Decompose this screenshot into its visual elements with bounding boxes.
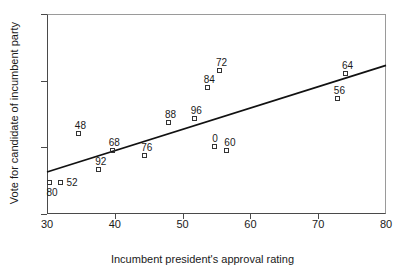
data-point-marker	[110, 148, 115, 153]
data-point-marker	[343, 71, 348, 76]
x-tick-label: 30	[32, 219, 62, 230]
scatter-chart: 40506070 304050607080 805292486876889684…	[0, 0, 405, 276]
data-point-marker	[96, 167, 101, 172]
x-tick-mark	[183, 214, 184, 219]
data-point-label: 64	[342, 61, 353, 71]
data-point-marker	[192, 116, 197, 121]
x-tick-mark	[318, 214, 319, 219]
data-point-label: 88	[165, 110, 176, 120]
data-point-marker	[166, 120, 171, 125]
data-point-label: 72	[216, 58, 227, 68]
y-axis-title: Vote for candidate of incumbent party	[8, 3, 20, 223]
y-tick-mark	[41, 147, 47, 148]
x-tick-label: 80	[371, 219, 401, 230]
data-point-marker	[217, 68, 222, 73]
data-point-marker	[76, 131, 81, 136]
data-point-marker	[335, 96, 340, 101]
x-tick-label: 60	[235, 219, 265, 230]
data-point-marker	[205, 85, 210, 90]
y-tick-mark	[41, 214, 47, 215]
x-tick-mark	[250, 214, 251, 219]
data-point-marker	[58, 180, 63, 185]
data-point-label: 56	[334, 86, 345, 96]
data-point-marker	[224, 148, 229, 153]
y-tick-mark	[41, 14, 47, 15]
data-point-marker	[47, 180, 52, 185]
x-tick-label: 40	[100, 219, 130, 230]
data-point-label: 76	[141, 143, 152, 153]
data-point-label: 48	[75, 121, 86, 131]
y-tick-mark	[41, 81, 47, 82]
x-tick-label: 50	[168, 219, 198, 230]
x-axis-title: Incumbent president's approval rating	[0, 253, 405, 265]
trend-line-layer	[0, 0, 405, 276]
data-point-label: 92	[95, 157, 106, 167]
data-point-label: 60	[224, 138, 235, 148]
data-point-label: 0	[212, 134, 218, 144]
data-point-label: 52	[67, 178, 78, 188]
data-point-label: 80	[46, 188, 57, 198]
data-point-label: 84	[204, 75, 215, 85]
x-tick-label: 70	[303, 219, 333, 230]
data-point-marker	[212, 144, 217, 149]
data-point-marker	[142, 153, 147, 158]
data-point-label: 68	[109, 138, 120, 148]
x-tick-mark	[115, 214, 116, 219]
data-point-label: 96	[191, 106, 202, 116]
